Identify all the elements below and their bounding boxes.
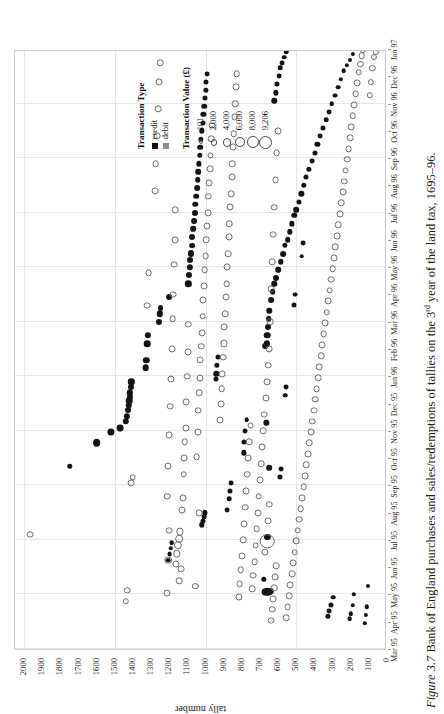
scatter-point-debit <box>240 537 247 544</box>
scatter-point-credit <box>365 605 369 609</box>
scatter-point-debit <box>203 237 210 244</box>
scatter-point-debit <box>228 190 235 197</box>
scatter-point-debit <box>290 560 297 567</box>
scatter-point-debit <box>228 174 235 181</box>
scatter-point-debit <box>165 463 172 470</box>
y-tick-label: 900 <box>218 658 228 671</box>
scatter-point-credit <box>158 305 164 311</box>
scatter-point-credit <box>275 82 280 87</box>
scatter-point-debit <box>347 134 354 141</box>
scatter-point-debit <box>252 542 259 549</box>
scatter-point-debit <box>269 258 276 265</box>
scatter-point-credit <box>350 603 354 607</box>
scatter-point-debit <box>129 474 136 481</box>
scatter-point-credit <box>276 74 281 79</box>
scatter-point-debit <box>164 493 171 500</box>
y-tick-label: 1200 <box>163 658 173 675</box>
figure-caption-ordinal: rd <box>423 305 432 312</box>
scatter-point-credit <box>282 55 287 60</box>
x-tick-label: May 95 <box>390 583 399 608</box>
scatter-point-debit <box>286 593 293 600</box>
scatter-point-credit <box>345 63 349 67</box>
scatter-point-credit <box>193 193 199 199</box>
scatter-point-credit <box>128 384 134 390</box>
x-tick-label: Jan 97 <box>390 39 399 60</box>
x-tick-label: Aug 95 <box>390 501 399 525</box>
scatter-point-debit <box>313 385 320 392</box>
x-tick-mark <box>388 322 391 323</box>
scatter-point-credit <box>301 183 306 188</box>
chart-legend: Transaction Type creditdebit Transaction… <box>135 67 272 149</box>
x-tick-label: Dec 96 <box>390 66 399 89</box>
scatter-point-credit <box>196 161 201 166</box>
legend-bubble-wrap <box>235 135 245 149</box>
scatter-point-debit <box>274 127 281 134</box>
scatter-point-credit <box>227 497 232 502</box>
scatter-point-debit <box>205 193 212 200</box>
figure-page: tally number 010020030040050060070080090… <box>0 0 444 714</box>
scatter-point-credit <box>321 126 326 131</box>
scatter-point-debit <box>172 207 179 214</box>
x-tick-mark <box>388 213 391 214</box>
x-tick-label: Sep 95 <box>390 475 399 498</box>
legend-value-label: 9,206 <box>260 111 272 130</box>
scatter-point-debit <box>167 403 174 410</box>
scatter-point-debit <box>222 294 229 301</box>
scatter-point-debit <box>192 583 198 589</box>
x-tick-label: Nov 95 <box>390 420 399 444</box>
x-tick-mark <box>388 594 391 595</box>
scatter-point-credit <box>225 508 230 513</box>
scatter-point-debit <box>171 237 178 244</box>
scatter-point-credit <box>276 267 282 273</box>
x-tick-label: Apr 95 <box>390 611 399 634</box>
y-tick-label: 400 <box>308 658 318 671</box>
scatter-point-debit <box>368 79 374 85</box>
scatter-point-debit <box>325 298 332 305</box>
scatter-point-debit <box>338 200 345 207</box>
x-axis-tick-labels: Mar 95Apr 95May 95Jun 95Jul 95Aug 95Sep … <box>388 50 418 650</box>
scatter-point-credit <box>299 191 304 196</box>
scatter-point-debit <box>261 411 268 418</box>
scatter-point-credit <box>128 379 134 385</box>
scatter-point-debit <box>250 572 257 579</box>
scatter-point-debit <box>321 331 328 338</box>
scatter-point-debit <box>223 280 230 287</box>
legend-bubble-wrap <box>223 135 231 149</box>
scatter-point-credit <box>67 464 72 469</box>
scatter-point-debit <box>283 614 290 621</box>
scatter-point-debit <box>271 584 278 591</box>
scatter-point-credit <box>296 199 301 204</box>
scatter-point-debit <box>178 506 185 513</box>
x-tick-mark <box>388 540 391 541</box>
y-tick-label: 800 <box>236 658 246 671</box>
scatter-point-debit <box>182 425 189 432</box>
scatter-point-credit <box>186 272 192 278</box>
scatter-point-debit <box>218 385 225 392</box>
legend-value-row: 101 <box>194 67 207 149</box>
scatter-point-debit <box>304 451 311 458</box>
scatter-point-credit <box>273 90 278 95</box>
legend-value-row: 6,000 <box>233 67 246 149</box>
scatter-point-debit <box>166 527 173 534</box>
scatter-point-debit <box>225 250 232 257</box>
y-tick-label: 1300 <box>145 658 155 675</box>
scatter-point-credit <box>125 407 131 413</box>
x-tick-mark <box>388 294 391 295</box>
scatter-point-debit <box>247 422 254 429</box>
scatter-point-debit <box>257 477 264 484</box>
rotated-figure-canvas: tally number 010020030040050060070080090… <box>0 0 444 714</box>
scatter-point-credit <box>267 308 272 313</box>
legend-swatch-icon <box>152 143 158 149</box>
scatter-point-debit <box>265 517 272 524</box>
scatter-point-debit <box>312 396 319 403</box>
scatter-point-debit <box>181 455 188 462</box>
scatter-point-debit <box>206 179 213 186</box>
y-tick-label: 1100 <box>181 658 191 675</box>
scatter-point-debit <box>151 187 158 194</box>
scatter-point-debit <box>166 432 173 439</box>
scatter-point-credit <box>278 66 283 71</box>
scatter-point-debit <box>354 80 361 87</box>
scatter-point-credit <box>190 226 196 232</box>
scatter-point-debit <box>273 149 280 156</box>
scatter-point-credit <box>278 259 283 264</box>
